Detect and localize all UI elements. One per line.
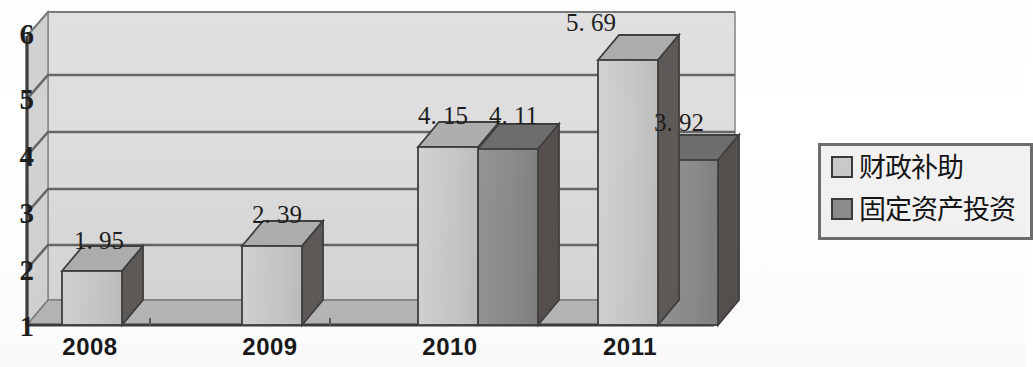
legend-label-fiscal-subsidy: 财政补助	[859, 154, 963, 181]
data-label-2008-fiscal-subsidy: 1. 95	[74, 228, 124, 253]
data-label-2011-fiscal-subsidy: 5. 69	[566, 10, 616, 35]
y-tick-6: 6	[4, 20, 34, 49]
data-label-2011-fixed-asset-investment: 3. 92	[654, 110, 704, 135]
x-tick-2008: 2008	[35, 333, 145, 361]
x-tick-2009: 2009	[215, 333, 325, 361]
y-tick-1: 1	[4, 312, 34, 341]
bar-2008-fiscal-subsidy	[62, 246, 143, 325]
data-label-2010-fiscal-subsidy: 4. 15	[418, 103, 468, 128]
x-tick-2010: 2010	[395, 333, 505, 361]
y-tick-3: 3	[4, 199, 34, 228]
data-label-2009-fiscal-subsidy: 2. 39	[252, 202, 302, 227]
legend-label-fixed-asset-investment: 固定资产投资	[859, 196, 1015, 223]
y-tick-5: 5	[4, 85, 34, 114]
legend-swatch-fiscal-subsidy	[831, 156, 853, 178]
bar-2011-fiscal-subsidy	[598, 35, 679, 325]
bar-2009-fiscal-subsidy	[242, 221, 323, 325]
legend-item-fiscal-subsidy[interactable]: 财政补助	[821, 146, 1030, 188]
legend-item-fixed-asset-investment[interactable]: 固定资产投资	[821, 188, 1030, 230]
chart-legend: 财政补助 固定资产投资	[818, 143, 1033, 240]
legend-swatch-fixed-asset-investment	[831, 198, 853, 220]
y-tick-4: 4	[4, 142, 34, 171]
data-label-2010-fixed-asset-investment: 4. 11	[489, 103, 538, 128]
y-tick-2: 2	[4, 256, 34, 285]
x-tick-2011: 2011	[575, 333, 685, 361]
bar-2010-fixed-asset-investment	[478, 124, 559, 325]
